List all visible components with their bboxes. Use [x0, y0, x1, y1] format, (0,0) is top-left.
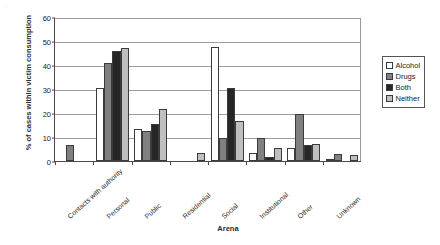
- y-tick-label: 60: [43, 14, 51, 23]
- bar-slot: [121, 18, 129, 161]
- bar-neither-other[interactable]: [312, 144, 320, 161]
- bar-neither-public[interactable]: [159, 109, 167, 161]
- bar-group: [93, 18, 131, 161]
- bar-slot: [96, 18, 104, 161]
- bar-neither-unknown[interactable]: [350, 155, 358, 161]
- legend-swatch-icon: [386, 95, 393, 102]
- bar-drugs-public[interactable]: [142, 131, 150, 161]
- legend-swatch-icon: [386, 84, 393, 91]
- legend-swatch-icon: [386, 73, 393, 80]
- bar-slot: [249, 18, 257, 161]
- bar-group: [55, 18, 93, 161]
- bar-group: [170, 18, 208, 161]
- y-tick-label: 0: [47, 158, 51, 167]
- bar-slot: [304, 18, 312, 161]
- bar-slot: [295, 18, 303, 161]
- y-tick-label: 40: [43, 62, 51, 71]
- bar-slot: [173, 18, 181, 161]
- bar-slot: [159, 18, 167, 161]
- bar-slot: [227, 18, 235, 161]
- bar-both-personal[interactable]: [112, 51, 120, 161]
- bar-group: [285, 18, 323, 161]
- y-tick-label: 50: [43, 38, 51, 47]
- bar-drugs-institutional[interactable]: [257, 138, 265, 161]
- bar-both-institutional[interactable]: [265, 157, 273, 161]
- x-axis-label: Unknown: [335, 195, 361, 220]
- bar-group: [132, 18, 170, 161]
- bar-groups: [55, 18, 361, 161]
- bar-slot: [58, 18, 66, 161]
- bar-slot: [211, 18, 219, 161]
- bar-neither-social[interactable]: [235, 121, 243, 161]
- bar-slot: [326, 18, 334, 161]
- bar-slot: [312, 18, 320, 161]
- bar-slot: [235, 18, 243, 161]
- y-axis-title: % of cases within victim consumption: [24, 8, 33, 158]
- bar-slot: [334, 18, 342, 161]
- bar-both-social[interactable]: [227, 88, 235, 161]
- legend-item-neither[interactable]: Neither: [386, 93, 420, 104]
- bar-slot: [265, 18, 273, 161]
- plot-area: 0102030405060: [54, 18, 361, 162]
- x-axis-label: Social: [220, 202, 239, 220]
- bar-slot: [274, 18, 282, 161]
- legend-swatch-icon: [386, 62, 393, 69]
- x-axis-title: Arena: [0, 224, 440, 233]
- x-axis-label: Residential: [182, 192, 212, 220]
- bar-slot: [287, 18, 295, 161]
- bar-slot: [189, 18, 197, 161]
- chart-figure: :: % of cases within victim consumption …: [0, 0, 440, 245]
- legend-item-alcohol[interactable]: Alcohol: [386, 60, 420, 71]
- bar-drugs-other[interactable]: [295, 114, 303, 161]
- bar-drugs-contacts-with-authority[interactable]: [66, 145, 74, 161]
- x-axis-label: Personal: [105, 196, 130, 220]
- legend-label: Neither: [396, 94, 420, 103]
- bar-slot: [134, 18, 142, 161]
- bar-drugs-personal[interactable]: [104, 63, 112, 161]
- bar-group: [323, 18, 361, 161]
- bar-slot: [197, 18, 205, 161]
- legend-item-drugs[interactable]: Drugs: [386, 71, 420, 82]
- bar-drugs-unknown[interactable]: [334, 154, 342, 161]
- bar-slot: [181, 18, 189, 161]
- legend-label: Drugs: [396, 72, 416, 81]
- bar-both-other[interactable]: [304, 145, 312, 161]
- bar-slot: [74, 18, 82, 161]
- bar-group: [208, 18, 246, 161]
- y-tick-label: 20: [43, 110, 51, 119]
- x-axis-category-labels: Contacts with authorityPersonalPublicRes…: [54, 162, 361, 220]
- bar-alcohol-personal[interactable]: [96, 88, 104, 161]
- x-axis-label: Public: [143, 202, 162, 220]
- bar-slot: [104, 18, 112, 161]
- legend-label: Alcohol: [396, 61, 421, 70]
- bar-slot: [142, 18, 150, 161]
- bar-slot: [66, 18, 74, 161]
- legend-label: Both: [396, 83, 411, 92]
- bar-slot: [112, 18, 120, 161]
- bar-slot: [350, 18, 358, 161]
- bar-slot: [82, 18, 90, 161]
- bar-alcohol-social[interactable]: [211, 47, 219, 161]
- bar-slot: [257, 18, 265, 161]
- x-axis-title-text: Arena: [217, 224, 238, 233]
- bar-alcohol-institutional[interactable]: [249, 153, 257, 161]
- bar-slot: [342, 18, 350, 161]
- bar-both-public[interactable]: [151, 124, 159, 161]
- y-tick-label: 10: [43, 134, 51, 143]
- bar-group: [246, 18, 284, 161]
- chart-legend: AlcoholDrugsBothNeither: [382, 56, 425, 108]
- bar-slot: [151, 18, 159, 161]
- bar-drugs-social[interactable]: [219, 138, 227, 161]
- scan-artifact: ::: [4, 3, 8, 9]
- bar-neither-institutional[interactable]: [274, 148, 282, 161]
- bar-neither-residential[interactable]: [197, 153, 205, 161]
- bar-slot: [219, 18, 227, 161]
- bar-alcohol-public[interactable]: [134, 129, 142, 161]
- x-axis-label: Other: [297, 203, 315, 220]
- legend-item-both[interactable]: Both: [386, 82, 420, 93]
- bar-neither-personal[interactable]: [121, 48, 129, 161]
- x-axis-label: Institutional: [258, 191, 289, 220]
- bar-alcohol-unknown[interactable]: [326, 159, 334, 161]
- y-tick-label: 30: [43, 86, 51, 95]
- bar-alcohol-other[interactable]: [287, 148, 295, 161]
